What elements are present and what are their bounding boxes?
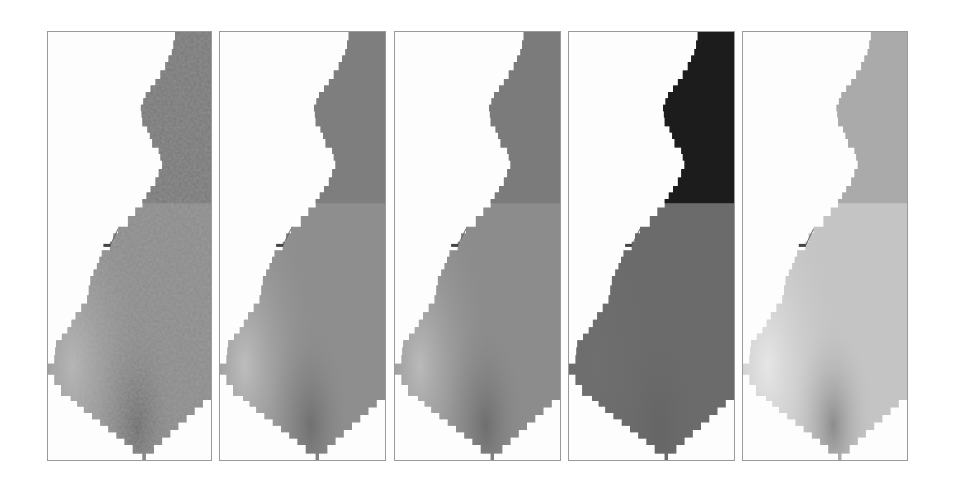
- heatmap-shape: [48, 32, 211, 460]
- heatmap-shape: [743, 32, 907, 460]
- heatmap-shape: [220, 32, 385, 460]
- heatmap-panel-5: [742, 31, 908, 461]
- heatmap-panel-3: [394, 31, 561, 461]
- heatmap-shape: [569, 32, 734, 460]
- heatmap-panel-2: [219, 31, 386, 461]
- heatmap-panel-4: [568, 31, 735, 461]
- heatmap-panel-1: [47, 31, 212, 461]
- heatmap-shape: [395, 32, 560, 460]
